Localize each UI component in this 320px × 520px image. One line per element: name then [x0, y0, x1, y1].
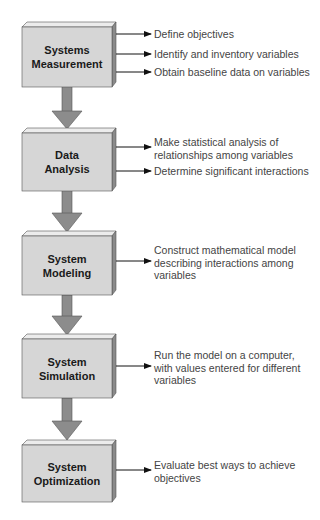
output-note: Identify and inventory variables: [154, 48, 299, 61]
stage-label-data-analysis: Data Analysis: [22, 148, 112, 176]
note-line: Run the model on a computer,: [154, 349, 300, 362]
stage-label-line: System: [22, 460, 112, 474]
note-line: with values entered for different: [154, 362, 300, 375]
stage-label-system-simulation: System Simulation: [22, 355, 112, 383]
flow-arrow-1: [52, 86, 82, 129]
flow-arrow-3: [52, 295, 82, 335]
stage-label-line: Systems: [22, 43, 112, 57]
stage-label-systems-measurement: Systems Measurement: [22, 43, 112, 71]
note-line: Obtain baseline data on variables: [154, 66, 310, 79]
stage-label-line: Modeling: [22, 266, 112, 280]
stage-label-line: Optimization: [22, 474, 112, 488]
output-note: Obtain baseline data on variables: [154, 66, 310, 79]
note-line: relationships among variables: [154, 149, 293, 162]
stage-label-system-optimization: System Optimization: [22, 460, 112, 488]
note-line: Make statistical analysis of: [154, 136, 293, 149]
output-note: Evaluate best ways to achieve objectives: [154, 459, 295, 484]
note-line: variables: [154, 269, 296, 282]
stage-label-line: Data: [22, 148, 112, 162]
note-line: describing interactions among: [154, 257, 296, 270]
output-note: Construct mathematical model describing …: [154, 244, 296, 282]
flow-arrow-2: [52, 190, 82, 232]
stage-label-system-modeling: System Modeling: [22, 252, 112, 280]
stage-label-line: System: [22, 355, 112, 369]
note-line: Construct mathematical model: [154, 244, 296, 257]
stage-label-line: Simulation: [22, 369, 112, 383]
note-line: Define objectives: [154, 28, 234, 41]
note-line: objectives: [154, 472, 295, 485]
flowchart: Systems Measurement Data Analysis System…: [0, 0, 320, 520]
output-note: Define objectives: [154, 28, 234, 41]
output-note: Run the model on a computer, with values…: [154, 349, 300, 387]
stage-label-line: System: [22, 252, 112, 266]
stage-label-line: Analysis: [22, 162, 112, 176]
note-line: Determine significant interactions: [154, 165, 309, 178]
flow-arrow-4: [52, 398, 82, 440]
stage-label-line: Measurement: [22, 57, 112, 71]
output-note: Make statistical analysis of relationshi…: [154, 136, 293, 161]
output-note: Determine significant interactions: [154, 165, 309, 178]
note-line: variables: [154, 374, 300, 387]
note-line: Identify and inventory variables: [154, 48, 299, 61]
note-line: Evaluate best ways to achieve: [154, 459, 295, 472]
